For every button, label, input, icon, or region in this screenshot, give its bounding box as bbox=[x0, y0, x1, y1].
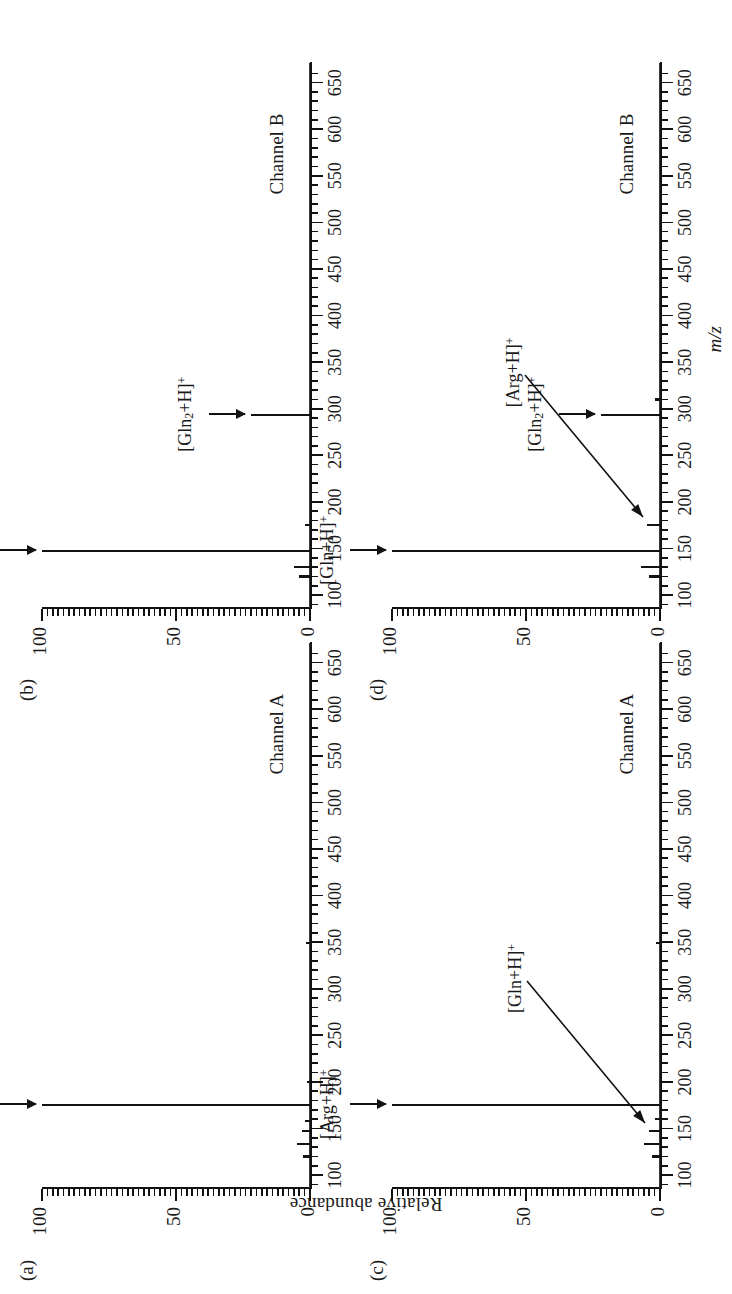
y-tick bbox=[456, 1189, 458, 1196]
y-tick bbox=[293, 1189, 295, 1196]
y-tick bbox=[450, 609, 452, 616]
y-tick bbox=[648, 1189, 650, 1196]
y-tick-label: 50 bbox=[513, 627, 535, 681]
x-tick bbox=[662, 904, 668, 906]
y-tick bbox=[590, 1189, 592, 1196]
y-tick bbox=[218, 1189, 220, 1196]
x-tick bbox=[312, 1025, 318, 1027]
x-tick bbox=[662, 867, 668, 869]
x-tick-label: 400 bbox=[675, 872, 696, 920]
x-tick bbox=[662, 119, 668, 121]
x-tick-label: 650 bbox=[325, 59, 346, 107]
y-tick bbox=[552, 1189, 554, 1196]
x-tick bbox=[662, 510, 668, 512]
x-tick bbox=[312, 119, 318, 121]
y-tick bbox=[79, 1189, 81, 1196]
y-tick-label: 100 bbox=[379, 1207, 401, 1261]
x-tick bbox=[662, 464, 668, 466]
y-tick bbox=[106, 1189, 108, 1196]
y-tick bbox=[595, 1189, 597, 1196]
y-tick bbox=[418, 609, 420, 616]
y-tick bbox=[461, 1189, 463, 1196]
y-tick bbox=[407, 609, 409, 616]
x-tick-label: 650 bbox=[675, 639, 696, 687]
x-tick-label: 600 bbox=[675, 685, 696, 733]
x-tick bbox=[662, 848, 673, 850]
y-tick bbox=[482, 609, 484, 616]
x-tick bbox=[312, 594, 323, 596]
x-tick bbox=[312, 427, 318, 429]
x-tick bbox=[662, 73, 668, 75]
x-tick bbox=[312, 876, 318, 878]
panel-letter-b: (b) bbox=[16, 679, 38, 701]
y-tick bbox=[100, 609, 102, 616]
y-tick bbox=[434, 1189, 436, 1196]
x-tick bbox=[312, 259, 318, 261]
y-tick bbox=[632, 609, 634, 616]
x-tick bbox=[312, 277, 318, 279]
y-tick bbox=[154, 609, 156, 616]
x-tick bbox=[312, 802, 323, 804]
x-tick bbox=[312, 604, 318, 606]
y-tick-label: 0 bbox=[297, 1207, 319, 1261]
y-tick bbox=[245, 1189, 247, 1196]
peak-annotation-arrow: [Arg+H]+ bbox=[340, 1103, 386, 1105]
peak-annotation-arrow: [Gln+H]+ bbox=[0, 549, 36, 551]
x-tick bbox=[662, 594, 673, 596]
y-tick bbox=[659, 1189, 661, 1201]
y-tick bbox=[229, 1189, 231, 1196]
x-tick bbox=[312, 774, 318, 776]
x-tick bbox=[312, 389, 318, 391]
figure-rotation-wrapper: Relative abundance m/z (a)05010010015020… bbox=[0, 0, 732, 1294]
leader-line-icon bbox=[525, 355, 663, 525]
y-tick bbox=[579, 609, 581, 616]
y-tick-label: 0 bbox=[647, 1207, 669, 1261]
y-tick bbox=[622, 1189, 624, 1196]
arrow-head-icon bbox=[27, 545, 37, 555]
y-tick bbox=[659, 609, 661, 621]
x-tick bbox=[662, 333, 668, 335]
y-tick bbox=[391, 1189, 393, 1201]
y-tick bbox=[627, 609, 629, 616]
x-tick bbox=[312, 399, 318, 401]
x-tick-label: 550 bbox=[675, 152, 696, 200]
y-tick bbox=[41, 1189, 43, 1201]
y-tick bbox=[164, 1189, 166, 1196]
x-tick bbox=[312, 585, 318, 587]
x-tick-label: 500 bbox=[325, 778, 346, 826]
x-tick bbox=[312, 436, 318, 438]
spectrum-panel-d: (d)0501001001502002503003504004505005506… bbox=[392, 64, 720, 609]
y-tick bbox=[213, 609, 215, 616]
y-tick bbox=[111, 609, 113, 616]
x-tick bbox=[312, 848, 323, 850]
x-tick bbox=[312, 1007, 318, 1009]
y-tick bbox=[472, 609, 474, 616]
x-tick-label: 500 bbox=[675, 778, 696, 826]
y-tick bbox=[423, 609, 425, 616]
x-tick bbox=[662, 380, 668, 382]
y-tick bbox=[256, 1189, 258, 1196]
panel-letter-d: (d) bbox=[366, 679, 388, 701]
y-tick bbox=[547, 609, 549, 616]
x-tick bbox=[312, 820, 318, 822]
y-tick bbox=[95, 1189, 97, 1196]
x-tick bbox=[312, 699, 318, 701]
x-tick bbox=[662, 352, 668, 354]
arrow-head-icon bbox=[377, 1099, 387, 1109]
x-tick bbox=[662, 166, 668, 168]
x-tick bbox=[662, 212, 668, 214]
x-tick bbox=[662, 895, 673, 897]
x-tick bbox=[312, 203, 318, 205]
x-tick bbox=[312, 231, 318, 233]
peak-annotation-arrow: [Arg+H]+ bbox=[0, 1103, 36, 1105]
x-tick bbox=[662, 802, 673, 804]
y-tick bbox=[616, 1189, 618, 1196]
y-tick bbox=[175, 609, 177, 621]
x-tick bbox=[662, 585, 668, 587]
spectrum-peak bbox=[307, 1081, 310, 1083]
y-tick-label: 0 bbox=[297, 627, 319, 681]
x-tick bbox=[312, 240, 318, 242]
x-tick-label: 600 bbox=[325, 685, 346, 733]
x-tick bbox=[662, 727, 668, 729]
mass-spectra-figure: Relative abundance m/z (a)05010010015020… bbox=[0, 0, 732, 1294]
